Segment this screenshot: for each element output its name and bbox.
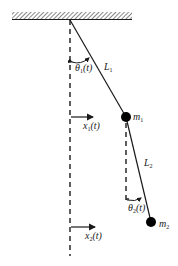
ceiling-hatch	[12, 12, 132, 19]
L1-subscript: 1	[110, 67, 113, 73]
theta1-label: θ1(t)	[75, 63, 92, 74]
x1-label: x1(t)	[83, 121, 100, 132]
theta1-argument: (t)	[83, 62, 92, 73]
L2-label: L2	[144, 158, 153, 169]
x2-label: x2(t)	[85, 231, 102, 242]
theta2-arc-icon	[127, 198, 141, 201]
m2-subscript: 2	[166, 224, 169, 230]
theta2-label: θ2(t)	[128, 203, 145, 214]
m2-label: m2	[159, 219, 169, 230]
diagram-graphics	[0, 0, 178, 266]
ceiling-support	[12, 12, 132, 20]
L2-subscript: 2	[150, 163, 153, 169]
L1-label: L1	[104, 62, 113, 73]
double-pendulum-diagram: θ1(t) L1 m1 x1(t) L2 θ2(t) m2 x2(t)	[0, 0, 178, 266]
mass-m2-icon	[146, 217, 156, 227]
x1-argument: (t)	[90, 120, 99, 131]
m1-label: m1	[133, 112, 143, 123]
x2-argument: (t)	[92, 230, 101, 241]
mass-m1-icon	[121, 112, 131, 122]
m1-subscript: 1	[140, 117, 143, 123]
theta2-argument: (t)	[136, 202, 145, 213]
